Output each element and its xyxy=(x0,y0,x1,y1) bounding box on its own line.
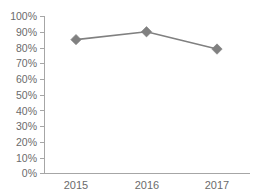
y-tick-label: 60% xyxy=(16,73,37,85)
chart-background xyxy=(0,0,263,195)
x-tick-label-2016: 2016 xyxy=(135,179,159,191)
y-tick-label: 80% xyxy=(16,42,37,54)
y-tick-label: 0% xyxy=(22,167,37,179)
y-tick-label: 100% xyxy=(10,10,37,22)
y-tick-label: 20% xyxy=(16,136,37,148)
y-tick-label: 70% xyxy=(16,57,37,69)
x-tick-label-2015: 2015 xyxy=(64,179,88,191)
line-chart: 100% 90% 80% 70% 60% 50% 40% 30% 20% 10%… xyxy=(0,0,263,195)
y-tick-label: 50% xyxy=(16,89,37,101)
y-tick-label: 40% xyxy=(16,105,37,117)
y-tick-label: 10% xyxy=(16,152,37,164)
y-tick-label: 30% xyxy=(16,120,37,132)
chart-canvas: 100% 90% 80% 70% 60% 50% 40% 30% 20% 10%… xyxy=(0,0,263,195)
x-tick-label-2017: 2017 xyxy=(205,179,229,191)
y-tick-label: 90% xyxy=(16,26,37,38)
